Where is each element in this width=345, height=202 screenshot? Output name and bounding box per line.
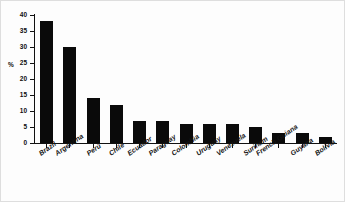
y-axis-tick-label: 15 [20,91,27,99]
y-axis-tick: 40 [30,15,34,16]
bar-slot [267,15,290,143]
bar [87,98,100,143]
x-axis-labels: BrazilArgentinaPerúChileEcuadorParaguayC… [35,149,337,199]
y-axis-tick-label: 30 [20,43,27,51]
x-axis-label-slot: French Guiana [267,149,290,199]
y-axis-tick-label: 5 [23,123,27,131]
bar-slot [58,15,81,143]
bar-slot [35,15,58,143]
bar [40,21,53,143]
y-axis-tick: 20 [30,79,34,80]
x-axis-label-slot: Venezuela [221,149,244,199]
x-axis-label-slot: Uruguay [198,149,221,199]
y-axis-tick: 25 [30,63,34,64]
y-axis-tick: 0 [30,143,34,144]
y-axis-tick-label: 40 [20,11,27,19]
y-axis-tick-label: 10 [20,107,27,115]
bar-slot [314,15,337,143]
x-axis-label-slot: Perú [81,149,104,199]
bar-slot [198,15,221,143]
y-axis-tick: 30 [30,47,34,48]
x-axis-tick [278,144,279,148]
y-axis-title: % [8,61,14,69]
x-axis-label-slot: Guyana [291,149,314,199]
bar-chart-figure: % 4035302520151050 BrazilArgentinaPerúCh… [0,0,345,202]
y-axis-tick: 10 [30,111,34,112]
bar-slot [174,15,197,143]
y-axis-tick-label: 35 [20,27,27,35]
bar [110,105,123,143]
bar-slot [81,15,104,143]
bar-slot [105,15,128,143]
x-axis-label-slot: Ecuador [128,149,151,199]
x-axis-label-slot: Argentina [58,149,81,199]
x-axis-label-slot: Colombia [174,149,197,199]
x-axis-label-slot: Surinam [244,149,267,199]
bar-slot [151,15,174,143]
bar-slot [244,15,267,143]
y-axis-tick: 5 [30,127,34,128]
y-axis-tick: 15 [30,95,34,96]
x-axis-label-slot: Paraguay [151,149,174,199]
x-axis-label-slot: Brazil [35,149,58,199]
y-axis-tick-label: 0 [23,139,27,147]
x-axis-label-slot: Bolivia [314,149,337,199]
y-axis-tick: 35 [30,31,34,32]
bar-slot [221,15,244,143]
y-axis-tick-label: 25 [20,59,27,67]
bar [63,47,76,143]
bar-slot [128,15,151,143]
x-axis-label-slot: Chile [105,149,128,199]
y-axis-tick-label: 20 [20,75,27,83]
